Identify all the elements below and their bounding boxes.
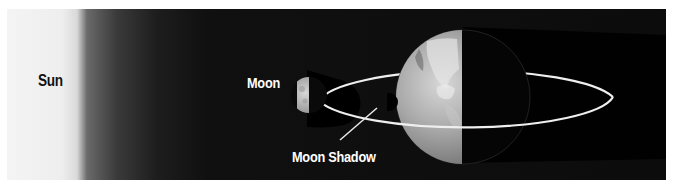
earth [380,30,530,164]
moon-shadow-label: Moon Shadow [292,148,376,165]
sun-label: Sun [38,72,63,90]
moon [291,77,327,113]
eclipse-diagram: Sun Moon Moon Shadow [7,9,666,180]
moon-label: Moon [247,74,280,91]
